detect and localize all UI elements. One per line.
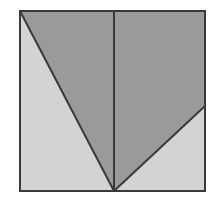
geometric-figure-svg (0, 0, 219, 201)
figure-container (0, 0, 219, 201)
